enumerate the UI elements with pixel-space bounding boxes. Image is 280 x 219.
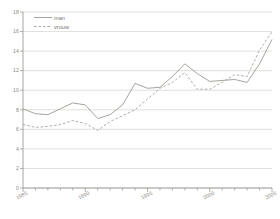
- legend-swatches: [0, 0, 280, 219]
- line-chart: 18161412108642019851990199520002005 man …: [0, 0, 280, 219]
